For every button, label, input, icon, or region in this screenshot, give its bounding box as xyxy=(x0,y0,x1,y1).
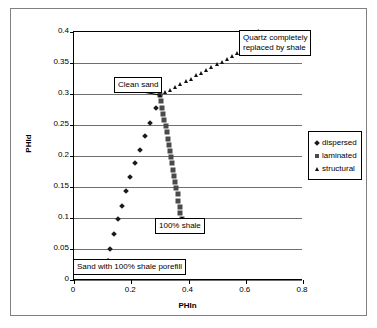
data-point-dispersed xyxy=(142,133,148,139)
data-point-laminated xyxy=(165,136,170,141)
x-axis-tick xyxy=(246,280,247,284)
data-point-structural xyxy=(204,68,208,72)
annotation-sand-shale-porefill: Sand with 100% shale porefill xyxy=(73,259,186,275)
legend-item-laminated[interactable]: laminated xyxy=(312,149,357,162)
chart-frame: 00.050.10.150.20.250.30.350.4 PHId 00.20… xyxy=(10,8,367,316)
data-point-laminated xyxy=(162,118,167,123)
x-axis-tick-label: 0.4 xyxy=(182,286,193,294)
x-axis-tick-label: 0.6 xyxy=(239,286,250,294)
x-axis-tick-labels: 00.20.40.60.8 xyxy=(73,286,302,298)
y-axis-tick-labels: 00.050.10.150.20.250.30.350.4 xyxy=(31,31,69,279)
data-point-laminated xyxy=(177,204,182,209)
data-point-laminated xyxy=(172,173,177,178)
data-point-laminated xyxy=(167,149,172,154)
y-axis-tick-label: 0.25 xyxy=(53,120,69,128)
plot-canvas xyxy=(74,32,302,279)
y-axis-tick xyxy=(70,218,74,219)
gridline-horizontal xyxy=(74,125,302,126)
data-point-laminated xyxy=(164,130,169,135)
data-point-laminated xyxy=(160,105,165,110)
data-point-laminated xyxy=(161,111,166,116)
y-axis-tick-label: 0.15 xyxy=(53,182,69,190)
gridline-horizontal xyxy=(74,94,302,95)
legend-item-structural[interactable]: structural xyxy=(312,162,357,175)
y-axis-tick-label: 0.35 xyxy=(53,58,69,66)
chart-legend: dispersedlaminatedstructural xyxy=(308,131,362,180)
x-axis-tick xyxy=(303,280,304,284)
data-point-structural xyxy=(209,65,213,69)
legend-label: laminated xyxy=(322,152,357,160)
y-axis-tick xyxy=(70,249,74,250)
data-point-laminated xyxy=(166,142,171,147)
data-point-structural xyxy=(189,77,193,81)
y-axis-tick xyxy=(70,94,74,95)
x-axis-tick-label: 0 xyxy=(71,286,75,294)
data-point-structural xyxy=(184,79,188,83)
data-point-structural xyxy=(230,54,234,58)
data-point-laminated xyxy=(175,192,180,197)
data-point-dispersed xyxy=(153,105,159,111)
gridline-horizontal xyxy=(74,156,302,157)
gridline-horizontal xyxy=(74,63,302,64)
x-axis-tick xyxy=(74,280,75,284)
data-point-dispersed xyxy=(127,174,133,180)
y-axis-tick-label: 0.1 xyxy=(58,213,69,221)
plot-area xyxy=(73,31,302,279)
y-axis-tick-label: 0.3 xyxy=(58,89,69,97)
data-point-dispersed xyxy=(119,203,125,209)
data-point-structural xyxy=(194,73,198,77)
y-axis-tick xyxy=(70,125,74,126)
x-axis-tick-label: 0.8 xyxy=(296,286,307,294)
data-point-structural xyxy=(163,90,167,94)
data-point-structural xyxy=(215,62,219,66)
y-axis-tick xyxy=(70,156,74,157)
x-axis-tick-label: 0.2 xyxy=(125,286,136,294)
x-axis-tick xyxy=(131,280,132,284)
y-axis-title: PHId xyxy=(24,121,33,167)
y-axis-tick-label: 0.4 xyxy=(58,27,69,35)
x-axis-line xyxy=(73,279,302,280)
y-axis-tick xyxy=(70,63,74,64)
data-point-laminated xyxy=(170,161,175,166)
data-point-dispersed xyxy=(107,246,113,252)
data-point-laminated xyxy=(169,155,174,160)
data-point-laminated xyxy=(159,99,164,104)
square-marker-icon xyxy=(312,154,322,158)
gridline-horizontal xyxy=(74,187,302,188)
legend-item-dispersed[interactable]: dispersed xyxy=(312,136,357,149)
diamond-marker-icon xyxy=(312,141,322,145)
legend-label: dispersed xyxy=(322,139,357,147)
data-point-laminated xyxy=(176,198,181,203)
annotation-quartz-replaced: Quartz completely replaced by shale xyxy=(239,30,311,56)
y-axis-tick xyxy=(70,187,74,188)
data-point-laminated xyxy=(173,180,178,185)
data-point-structural xyxy=(173,85,177,89)
y-axis-tick-label: 0.05 xyxy=(53,244,69,252)
data-point-dispersed xyxy=(123,188,129,194)
annotation-clean-sand: Clean sand xyxy=(114,77,162,93)
data-point-structural xyxy=(178,82,182,86)
data-point-dispersed xyxy=(115,216,121,222)
data-point-dispersed xyxy=(111,231,117,237)
annotation-100-percent-shale: 100% shale xyxy=(155,218,205,234)
data-point-structural xyxy=(225,57,229,61)
data-point-laminated xyxy=(171,167,176,172)
data-point-structural xyxy=(168,88,172,92)
data-point-laminated xyxy=(178,211,183,216)
data-point-structural xyxy=(220,60,224,64)
legend-label: structural xyxy=(322,165,355,173)
data-point-dispersed xyxy=(132,161,138,167)
triangle-marker-icon xyxy=(312,167,322,171)
data-point-dispersed xyxy=(137,147,143,153)
data-point-laminated xyxy=(163,124,168,129)
data-point-structural xyxy=(199,71,203,75)
y-axis-tick xyxy=(70,32,74,33)
y-axis-tick-label: 0.2 xyxy=(58,151,69,159)
data-point-laminated xyxy=(174,186,179,191)
x-axis-tick xyxy=(189,280,190,284)
x-axis-title: PHIn xyxy=(73,301,302,310)
y-axis-tick-label: 0 xyxy=(65,275,69,283)
